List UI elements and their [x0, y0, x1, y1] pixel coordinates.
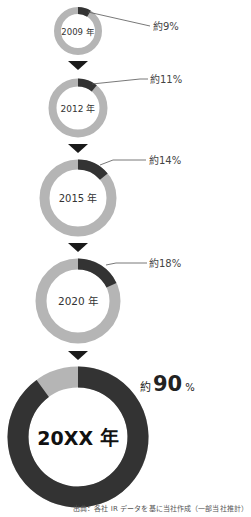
arrow-down-icon — [68, 144, 88, 153]
arrow-down-icon — [68, 61, 88, 70]
year-label: 2015 年 — [59, 192, 98, 204]
year-label: 20XX 年 — [37, 427, 118, 449]
share-suffix: % — [185, 382, 195, 393]
share-label: 約11% — [150, 73, 182, 85]
donut-2012: 2012 年 約11% — [53, 73, 183, 134]
share-prefix: 約 — [140, 380, 151, 394]
donut-2015: 2015 年 約14% — [45, 154, 182, 232]
share-arc — [78, 11, 89, 14]
donut-2020: 2020 年 約18% — [41, 257, 181, 338]
arrow-down-icon — [68, 351, 88, 360]
share-arc — [78, 264, 111, 285]
share-arc — [78, 165, 104, 177]
source-note: 出典：各社 IR データを基に当社作成（一部当社推計） — [73, 503, 248, 513]
donut-20xx: 20XX 年 約90% — [18, 372, 195, 497]
year-label: 2012 年 — [61, 103, 96, 114]
share-label: 約14% — [149, 154, 181, 166]
share-value: 90 — [153, 372, 182, 396]
share-label: 約18% — [149, 257, 181, 269]
donut-sequence-chart: 2009 年 約9% 2012 年 約11% 2015 年 約14% 2020 … — [0, 0, 251, 517]
year-label: 2020 年 — [58, 295, 98, 307]
share-arc — [78, 83, 94, 89]
year-label: 2009 年 — [61, 27, 94, 37]
arrow-down-icon — [68, 243, 88, 252]
share-label: 約9% — [153, 20, 179, 32]
donut-2009: 2009 年 約9% — [58, 11, 179, 52]
share-label: 約90% — [140, 372, 195, 396]
